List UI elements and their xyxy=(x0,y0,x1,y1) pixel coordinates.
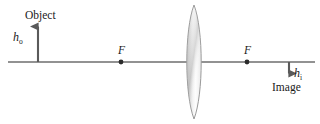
object-height-label: ho xyxy=(13,31,23,43)
converging-lens xyxy=(187,5,201,119)
focal-point-left-label: F xyxy=(118,45,125,57)
object-label: Object xyxy=(25,10,56,22)
focal-point-left-dot xyxy=(119,60,124,65)
focal-point-right-label: F xyxy=(244,45,251,57)
optics-ray-diagram: Object ho F F hi Image xyxy=(0,0,320,124)
object-height-subscript: o xyxy=(19,37,23,46)
image-label: Image xyxy=(272,82,301,94)
image-height-label: hi xyxy=(294,67,302,79)
lens-shading xyxy=(187,5,201,119)
focal-point-right-dot xyxy=(245,60,250,65)
